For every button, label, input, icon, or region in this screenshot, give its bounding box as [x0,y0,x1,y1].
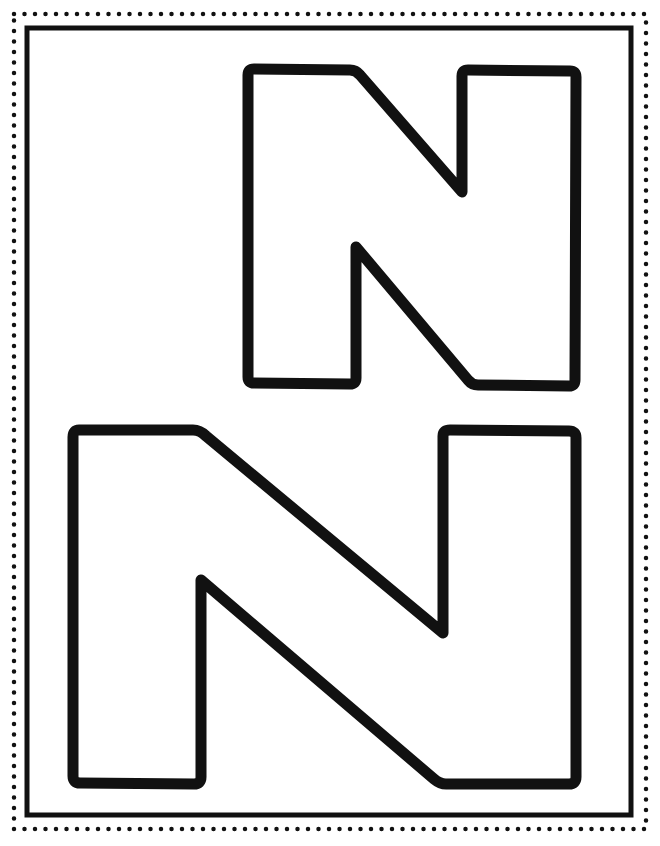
letter-n-small-outline [248,69,576,386]
coloring-page [0,0,660,846]
coloring-page-canvas [0,0,660,846]
letter-n-large-outline [73,430,576,784]
